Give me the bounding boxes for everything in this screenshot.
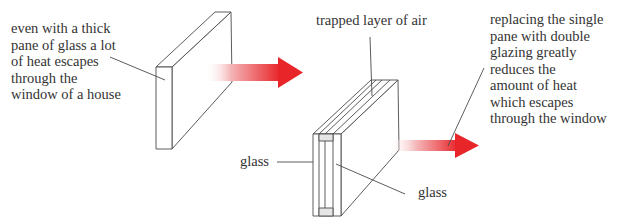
caption-line: glazing greatly: [490, 44, 607, 61]
heat-arrow-large-head: [278, 57, 303, 88]
double-glazing-caption: replacing the single pane with double gl…: [490, 11, 607, 127]
heat-arrow-small-shaft: [388, 140, 458, 151]
caption-line: through the: [11, 70, 121, 87]
caption-line: amount of heat: [490, 77, 607, 94]
caption-line: of heat escapes: [11, 53, 121, 70]
single-pane-caption: even with a thick pane of glass a lot of…: [11, 20, 121, 103]
caption-line: through the window: [490, 110, 607, 127]
caption-line: which escapes: [490, 94, 607, 111]
glass-label-left: glass: [240, 153, 269, 170]
air-gap-bottom-seal: [319, 208, 333, 216]
double-glazing-unit: [313, 80, 399, 216]
trapped-air-label: trapped layer of air: [316, 12, 427, 29]
double-glazing-front-face: [313, 134, 341, 216]
heat-arrow-small-head: [455, 133, 479, 158]
double-glazing-leader-line: [448, 68, 484, 146]
caption-line: replacing the single: [490, 11, 607, 28]
caption-line: reduces the: [490, 61, 607, 78]
glass-label-right: glass: [418, 184, 447, 201]
caption-line: pane of glass a lot: [11, 37, 121, 54]
heat-arrow-small: [388, 133, 479, 158]
air-gap-top-seal: [319, 134, 333, 141]
heat-arrow-large-shaft: [205, 64, 280, 81]
caption-line: window of a house: [11, 86, 121, 103]
caption-line: even with a thick: [11, 20, 121, 37]
caption-line: pane with double: [490, 28, 607, 45]
